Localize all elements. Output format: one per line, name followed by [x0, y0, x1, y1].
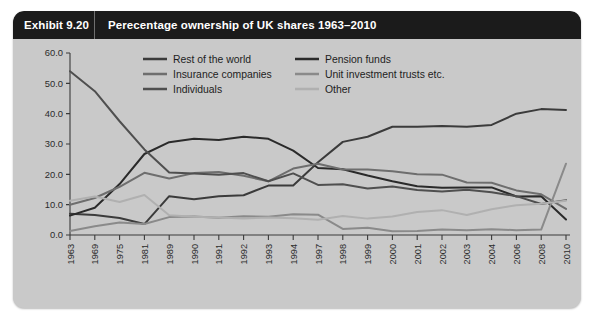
y-axis-tick-label: 20.0: [45, 169, 63, 180]
x-axis-tick-label: 1991: [214, 244, 224, 264]
series-line-individuals: [70, 71, 566, 204]
x-axis-tick-label: 1998: [338, 244, 348, 264]
y-axis-tick-label: 40.0: [45, 108, 63, 119]
x-axis-tick-label: 1999: [363, 244, 373, 264]
line-chart: 0.010.020.030.040.050.060.0 196319691975…: [13, 39, 581, 308]
x-axis-tick-label: 1990: [190, 244, 200, 264]
legend-label: Rest of the world: [173, 54, 251, 65]
x-axis-tick-label: 1975: [115, 244, 125, 264]
x-axis-tick-label: 1992: [239, 244, 249, 264]
chart-legend: Rest of the worldInsurance companiesIndi…: [143, 54, 445, 95]
exhibit-number: Exhibit 9.20: [13, 19, 94, 31]
legend-label: Other: [325, 84, 352, 95]
legend-label: Individuals: [173, 84, 222, 95]
exhibit-header-bar: Exhibit 9.20 Perecentage ownership of UK…: [13, 11, 581, 39]
y-axis-tick-label: 0.0: [50, 229, 63, 240]
chart-series-group: [70, 71, 566, 231]
x-axis-tick-label: 2000: [388, 244, 398, 264]
series-line-other: [70, 195, 566, 220]
y-axis-tick-label: 30.0: [45, 138, 63, 149]
x-axis-tick-label: 1969: [90, 244, 100, 264]
series-line-insurance-companies: [70, 164, 566, 209]
y-axis-tick-label: 50.0: [45, 78, 63, 89]
x-axis-tick-label: 2008: [537, 244, 547, 264]
x-axis-tick-label: 1997: [314, 244, 324, 264]
x-axis-tick-label: 1981: [140, 244, 150, 264]
x-axis: 1963196919751981198919901991199219931994…: [66, 235, 572, 264]
x-axis-tick-label: 1963: [66, 244, 76, 264]
legend-label: Insurance companies: [173, 69, 272, 80]
x-axis-tick-label: 2003: [462, 244, 472, 264]
y-axis-tick-label: 60.0: [45, 47, 63, 58]
y-axis-tick-label: 10.0: [45, 199, 63, 210]
x-axis-tick-label: 2004: [487, 244, 497, 264]
y-axis: 0.010.020.030.040.050.060.0: [45, 47, 70, 240]
x-axis-tick-label: 1994: [289, 244, 299, 264]
legend-label: Unit investment trusts etc.: [325, 69, 445, 80]
x-axis-tick-label: 2010: [562, 244, 572, 264]
legend-label: Pension funds: [325, 54, 391, 65]
x-axis-tick-label: 2006: [512, 244, 522, 264]
exhibit-card: Exhibit 9.20 Perecentage ownership of UK…: [13, 11, 581, 308]
exhibit-title: Perecentage ownership of UK shares 1963–…: [95, 19, 376, 31]
x-axis-tick-label: 1989: [165, 244, 175, 264]
chart-plot-area: 0.010.020.030.040.050.060.0 196319691975…: [13, 39, 581, 308]
x-axis-tick-label: 1993: [264, 244, 274, 264]
series-line-rest-of-the-world: [70, 109, 566, 224]
x-axis-tick-label: 2001: [413, 244, 423, 264]
x-axis-tick-label: 2002: [438, 244, 448, 264]
